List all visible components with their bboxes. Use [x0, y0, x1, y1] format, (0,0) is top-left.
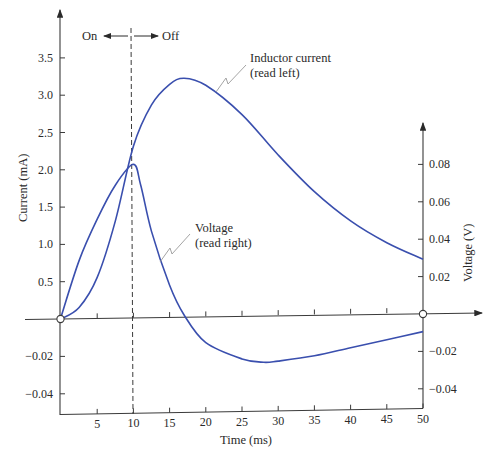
- x-tick-label: 20: [200, 415, 212, 429]
- x-tick-label: 45: [381, 412, 393, 426]
- origin-marker-left: [57, 315, 64, 322]
- x-tick-label: 10: [127, 416, 139, 430]
- current-annotation-line1: Inductor current: [250, 51, 331, 65]
- x-tick-label: 15: [164, 416, 176, 430]
- x-tick-label: 35: [308, 413, 320, 427]
- off-label: Off: [162, 29, 180, 43]
- x-tick-label: 25: [236, 415, 248, 429]
- right-tick-label: 0.08: [429, 157, 450, 171]
- left-tick-label: 0.5: [38, 275, 53, 289]
- right-tick-label: 0.02: [429, 270, 450, 284]
- x-tick-label: 50: [417, 412, 429, 426]
- left-tick-label: 1.5: [38, 200, 53, 214]
- x-tick-label: 40: [345, 413, 357, 427]
- left-tick-label: 3.0: [38, 88, 53, 102]
- origin-marker-right: [419, 310, 426, 317]
- on-label: On: [82, 29, 98, 43]
- right-tick-label: −0.04: [429, 382, 457, 396]
- left-tick-label: 2.5: [38, 126, 53, 140]
- voltage-annotation-line2: (read right): [195, 236, 252, 250]
- right-tick-label: −0.02: [429, 344, 457, 358]
- left-tick-label: 2.0: [38, 163, 53, 177]
- voltage-line: [61, 164, 423, 362]
- left-y-axis-title: Current (mA): [16, 154, 30, 222]
- dual-axis-line-chart: 0.51.01.52.02.53.03.5−0.02−0.040.020.040…: [0, 0, 493, 458]
- current-leader-line: [216, 65, 246, 92]
- x-tick-label: 5: [94, 417, 100, 431]
- voltage-leader-line: [160, 234, 190, 262]
- zero-x-axis: [25, 313, 482, 320]
- right-y-axis-title: Voltage (V): [461, 224, 475, 282]
- voltage-annotation-line1: Voltage: [195, 221, 233, 235]
- x-tick-label: 30: [272, 414, 284, 428]
- inductor-current-line: [61, 78, 423, 319]
- right-tick-label: 0.04: [429, 232, 450, 246]
- left-tick-label: 3.5: [38, 51, 53, 65]
- x-axis-title: Time (ms): [220, 433, 272, 447]
- on-off-dashed-marker: [131, 28, 133, 414]
- left-tick-label: 1.0: [38, 237, 53, 251]
- current-annotation-line2: (read left): [250, 66, 300, 80]
- right-tick-label: 0.06: [429, 195, 450, 209]
- left-tick-label: −0.02: [25, 349, 53, 363]
- left-tick-label: −0.04: [25, 387, 53, 401]
